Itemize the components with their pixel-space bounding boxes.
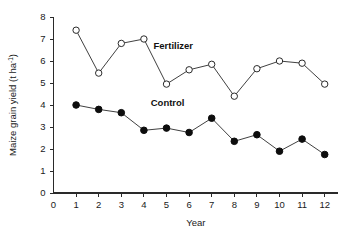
data-point-fertilizer-3 [118,40,124,46]
x-tick-label: 12 [319,199,330,210]
y-tick-label: 5 [40,77,45,88]
y-axis-title-text: Maize grain yield (t ha-1) [7,54,18,156]
series-label-control: Control [151,97,185,108]
data-point-fertilizer-11 [299,60,305,66]
data-point-fertilizer-5 [163,81,169,87]
x-tick-label: 0 [51,199,56,210]
data-point-fertilizer-10 [276,58,282,64]
series-markers [73,27,328,158]
x-axis-tick-labels: 0123456789101112 [51,199,330,210]
x-axis-ticks [76,193,325,197]
y-tick-label: 4 [40,99,45,110]
y-tick-label: 1 [40,165,45,176]
series-lines [76,30,325,154]
data-point-control-10 [276,148,283,155]
x-tick-label: 8 [232,199,237,210]
y-axis-title: Maize grain yield (t ha-1) [7,54,18,156]
data-point-control-5 [163,125,170,132]
data-point-fertilizer-9 [254,66,260,72]
x-axis-title-text: Year [186,217,205,228]
series-line-fertilizer [76,30,325,96]
y-axis-ticks [50,17,54,193]
series-annotations: FertilizerControl [151,40,194,108]
chart-axes [54,17,339,193]
data-point-fertilizer-8 [231,93,237,99]
y-axis-tick-labels: 012345678 [40,11,45,198]
x-tick-label: 3 [119,199,124,210]
x-tick-label: 4 [141,199,146,210]
x-tick-label: 5 [164,199,169,210]
data-point-control-1 [73,102,80,109]
y-tick-label: 3 [40,121,45,132]
y-tick-label: 0 [40,187,45,198]
data-point-control-2 [95,106,102,113]
data-point-control-9 [254,131,261,138]
x-tick-label: 6 [186,199,191,210]
x-tick-label: 1 [73,199,78,210]
data-point-control-7 [208,115,215,122]
y-tick-label: 7 [40,33,45,44]
x-tick-label: 9 [254,199,259,210]
data-point-fertilizer-1 [73,27,79,33]
y-tick-label: 2 [40,143,45,154]
series-line-control [76,105,325,155]
data-point-fertilizer-4 [141,36,147,42]
chart-container: 012345678 0123456789101112 FertilizerCon… [0,0,345,232]
x-tick-label: 11 [297,199,307,210]
y-tick-label: 6 [40,55,45,66]
data-point-control-8 [231,138,238,145]
line-chart: 012345678 0123456789101112 FertilizerCon… [0,0,345,232]
data-point-control-4 [141,127,148,134]
data-point-control-6 [186,129,193,136]
data-point-fertilizer-6 [186,67,192,73]
data-point-control-12 [321,151,328,158]
x-tick-label: 10 [274,199,285,210]
data-point-control-11 [299,136,306,143]
data-point-control-3 [118,109,125,116]
data-point-fertilizer-2 [96,70,102,76]
series-label-fertilizer: Fertilizer [153,40,193,51]
y-tick-label: 8 [40,11,45,22]
data-point-fertilizer-7 [209,61,215,67]
x-tick-label: 7 [209,199,214,210]
data-point-fertilizer-12 [322,81,328,87]
x-tick-label: 2 [96,199,101,210]
x-axis-title: Year [186,217,205,228]
